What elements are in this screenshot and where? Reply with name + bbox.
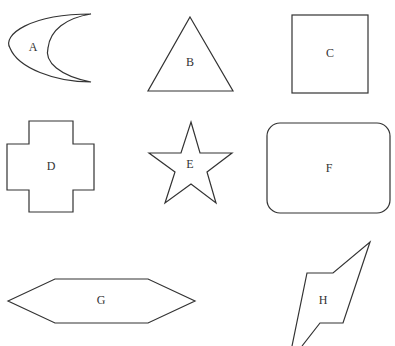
- shape-label-e: E: [186, 157, 193, 171]
- shape-label-a: A: [29, 40, 38, 54]
- shape-e: E: [149, 122, 232, 203]
- shape-c: C: [292, 15, 368, 93]
- shape-label-c: C: [326, 46, 334, 60]
- shape-label-d: D: [47, 159, 56, 173]
- crescent-shape: [9, 14, 91, 82]
- shape-f: F: [267, 123, 390, 213]
- irregular-polygon-shape: [292, 242, 370, 346]
- shape-label-h: H: [319, 293, 328, 307]
- shape-h: H: [292, 242, 370, 346]
- shape-label-f: F: [326, 161, 333, 175]
- shapes-figure: A B C D E F G H: [0, 0, 395, 346]
- shape-g: G: [8, 279, 195, 323]
- shape-b: B: [148, 17, 233, 91]
- shape-label-g: G: [97, 293, 106, 307]
- shape-d: D: [7, 121, 94, 212]
- shape-a: A: [9, 14, 91, 82]
- shape-label-b: B: [186, 55, 194, 69]
